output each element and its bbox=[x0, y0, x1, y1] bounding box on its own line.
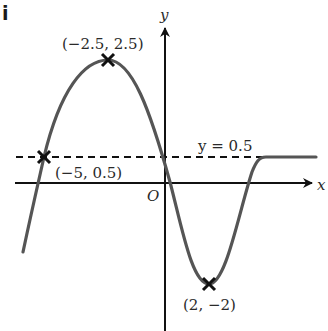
x-axis-label: x bbox=[317, 176, 326, 194]
max-point-label: (−2.5, 2.5) bbox=[62, 35, 144, 53]
origin-label: O bbox=[147, 187, 159, 205]
asymptote-label: y = 0.5 bbox=[197, 137, 252, 155]
point-label: (−5, 0.5) bbox=[55, 164, 122, 182]
y-axis-label: y bbox=[159, 6, 169, 24]
min-point-label: (2, −2) bbox=[183, 296, 236, 314]
graph: y x O y = 0.5 (−2.5, 2.5) (−5, 0.5) (2, … bbox=[0, 0, 328, 331]
